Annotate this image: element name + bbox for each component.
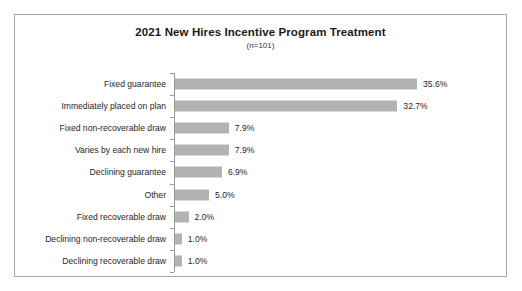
category-label: Fixed recoverable draw xyxy=(77,212,172,222)
bar-row: Declining non-recoverable draw1.0% xyxy=(15,228,506,250)
category-label: Varies by each new hire xyxy=(75,145,172,155)
bar-row: Fixed non-recoverable draw7.9% xyxy=(15,117,506,139)
category-label: Fixed non-recoverable draw xyxy=(59,123,172,133)
bar-row: Declining guarantee6.9% xyxy=(15,161,506,183)
bar-value-label: 2.0% xyxy=(195,212,215,222)
axis-tick xyxy=(170,228,174,229)
category-label: Declining recoverable draw xyxy=(62,256,172,266)
axis-tick xyxy=(170,184,174,185)
bar-row: Varies by each new hire7.9% xyxy=(15,139,506,161)
axis-tick xyxy=(170,250,174,251)
axis-tick xyxy=(170,117,174,118)
bar xyxy=(175,123,229,134)
bar xyxy=(175,233,182,244)
bar-value-label: 7.9% xyxy=(235,123,255,133)
category-label: Declining guarantee xyxy=(90,167,172,177)
chart-frame: 2021 New Hires Incentive Program Treatme… xyxy=(14,14,507,277)
axis-tick xyxy=(170,161,174,162)
axis-tick xyxy=(170,272,174,273)
bar xyxy=(175,101,397,112)
category-label: Other xyxy=(145,190,173,200)
bar-value-label: 6.9% xyxy=(228,167,248,177)
axis-tick xyxy=(170,206,174,207)
category-label: Fixed guarantee xyxy=(104,79,172,89)
bar xyxy=(175,189,209,200)
bar xyxy=(175,79,417,90)
bar-value-label: 1.0% xyxy=(188,256,208,266)
bar xyxy=(175,145,229,156)
bar-row: Declining recoverable draw1.0% xyxy=(15,250,506,272)
bar-value-label: 1.0% xyxy=(188,234,208,244)
bar-value-label: 35.6% xyxy=(423,79,447,89)
axis-tick xyxy=(170,139,174,140)
bar-row: Fixed guarantee35.6% xyxy=(15,73,506,95)
category-label: Immediately placed on plan xyxy=(61,101,172,111)
bar xyxy=(175,167,222,178)
bar-value-label: 7.9% xyxy=(235,145,255,155)
bar-row: Other5.0% xyxy=(15,184,506,206)
category-label: Declining non-recoverable draw xyxy=(45,234,172,244)
bar xyxy=(175,211,189,222)
axis-tick xyxy=(170,95,174,96)
plot-area: Fixed guarantee35.6%Immediately placed o… xyxy=(15,15,506,276)
bar-row: Fixed recoverable draw2.0% xyxy=(15,206,506,228)
bar-row: Immediately placed on plan32.7% xyxy=(15,95,506,117)
axis-tick xyxy=(170,73,174,74)
bar xyxy=(175,255,182,266)
bar-value-label: 5.0% xyxy=(215,190,235,200)
bar-value-label: 32.7% xyxy=(403,101,427,111)
